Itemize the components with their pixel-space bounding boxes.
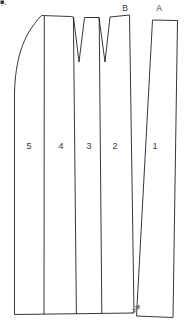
panel-number-4: 4: [58, 141, 63, 151]
panel-number-3: 3: [86, 141, 91, 151]
panel-1-outline: [137, 20, 178, 318]
corner-registration-tick: [1, 1, 6, 7]
pattern-canvas: B A 5 4 3 2 1: [0, 0, 185, 331]
panel-number-1: 1: [152, 141, 157, 151]
panel-number-5: 5: [26, 141, 31, 151]
reference-label-b: B: [122, 3, 128, 13]
reference-label-a: A: [156, 3, 162, 13]
pattern-diagram: B A 5 4 3 2 1: [0, 0, 185, 331]
panel-number-2: 2: [112, 141, 117, 151]
